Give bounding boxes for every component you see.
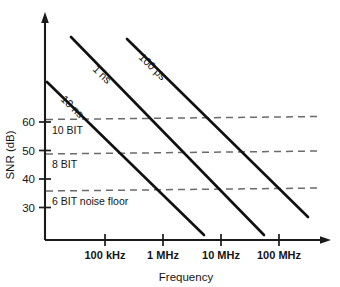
noise-floor-label-6bit: 6 BIT noise floor: [52, 195, 129, 207]
y-axis-title: SNR (dB): [4, 130, 16, 179]
x-axis-arrow-icon: [320, 236, 331, 244]
x-tick-label-100mhz: 100 MHz: [257, 249, 302, 261]
noise-floor-label-8bit: 8 BIT: [52, 158, 78, 170]
x-tick-group: 100 kHz 1 MHz 10 MHz 100 MHz: [85, 234, 302, 261]
y-tick-group: 60 50 40 30: [22, 116, 51, 214]
chart-canvas: 60 50 40 30 100 kHz 1 MHz 10 MHz 100 MHz…: [0, 0, 340, 287]
x-tick-label-1mhz: 1 MHz: [147, 249, 179, 261]
noise-floor-labels-group: 10 BIT 8 BIT 6 BIT noise floor: [52, 124, 129, 207]
curve-label-1ns: 1 ns: [91, 63, 115, 86]
curve-labels-group: 10 ns 1 ns 100 ps: [59, 51, 169, 121]
noise-floor-line-10bit: [46, 117, 321, 120]
y-axis-arrow-icon: [41, 12, 49, 23]
axis-group: [41, 12, 331, 244]
curve-label-100ps: 100 ps: [137, 51, 169, 83]
y-tick-label-50: 50: [22, 145, 35, 157]
x-axis-title: Frequency: [159, 271, 214, 283]
x-tick-label-100khz: 100 kHz: [85, 249, 126, 261]
y-tick-label-40: 40: [22, 173, 35, 185]
x-tick-label-10mhz: 10 MHz: [202, 249, 240, 261]
y-tick-label-60: 60: [22, 116, 35, 128]
snr-vs-frequency-chart: 60 50 40 30 100 kHz 1 MHz 10 MHz 100 MHz…: [0, 0, 340, 287]
noise-floor-label-10bit: 10 BIT: [52, 124, 84, 136]
y-tick-label-30: 30: [22, 202, 35, 214]
